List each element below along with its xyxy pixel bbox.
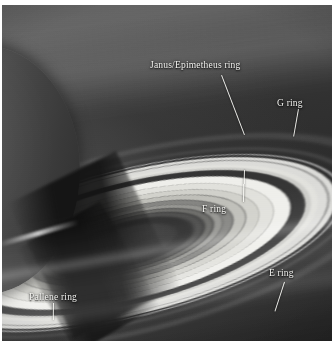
label-g-ring[interactable]: G ring <box>277 98 303 108</box>
label-pallene-ring[interactable]: Pallene ring <box>29 292 77 302</box>
label-e-ring[interactable]: E ring <box>269 268 294 278</box>
saturn-rings-figure: Janus/Epimetheus ring G ring F ring E ri… <box>0 0 334 347</box>
photograph-plate: Janus/Epimetheus ring G ring F ring E ri… <box>2 5 332 341</box>
label-janus-epimetheus-ring[interactable]: Janus/Epimetheus ring <box>150 60 240 70</box>
label-f-ring[interactable]: F ring <box>202 204 226 214</box>
